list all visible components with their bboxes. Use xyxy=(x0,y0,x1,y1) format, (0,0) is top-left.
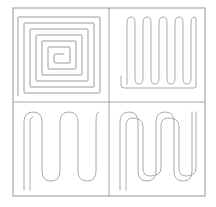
figure-root xyxy=(0,0,216,207)
coil-pattern-diagram xyxy=(0,0,216,207)
